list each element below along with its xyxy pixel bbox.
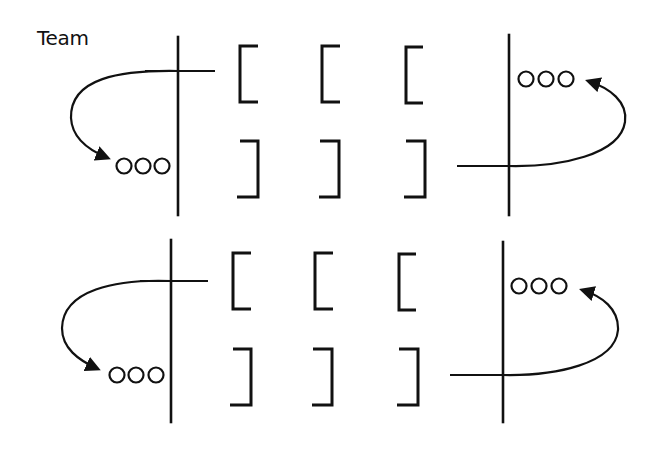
left-group — [62, 240, 208, 422]
player-circle — [519, 72, 534, 87]
player-circle — [110, 368, 125, 383]
bracket-group — [237, 46, 425, 197]
left-bracket-icon — [406, 47, 423, 103]
player-circle — [552, 279, 567, 294]
right-bracket-icon — [404, 141, 425, 197]
left-bracket-icon — [233, 253, 251, 309]
curved-arrow-icon — [503, 290, 618, 375]
player-circle — [532, 279, 547, 294]
right-group — [457, 35, 625, 215]
right-bracket-icon — [312, 349, 332, 405]
left-group — [71, 37, 215, 215]
curved-arrow-icon — [509, 81, 625, 166]
left-bracket-icon — [240, 46, 258, 102]
formation-row-2 — [62, 240, 618, 422]
right-group — [450, 242, 618, 422]
player-circle — [155, 159, 170, 174]
left-bracket-icon — [322, 46, 340, 102]
player-circle — [512, 279, 527, 294]
player-circle — [129, 368, 144, 383]
player-circle — [559, 72, 574, 87]
bracket-group — [230, 253, 418, 405]
formation-row-1 — [71, 35, 625, 215]
left-bracket-icon — [315, 253, 333, 309]
right-bracket-icon — [397, 349, 418, 405]
right-bracket-icon — [319, 141, 339, 197]
player-circle — [136, 159, 151, 174]
curved-arrow-icon — [62, 281, 171, 369]
player-circle — [539, 72, 554, 87]
curved-arrow-icon — [71, 71, 178, 158]
left-bracket-icon — [399, 254, 416, 310]
formation-diagram — [0, 0, 657, 462]
player-circle — [149, 368, 164, 383]
player-circle — [117, 159, 132, 174]
right-bracket-icon — [237, 141, 258, 197]
right-bracket-icon — [230, 349, 251, 405]
